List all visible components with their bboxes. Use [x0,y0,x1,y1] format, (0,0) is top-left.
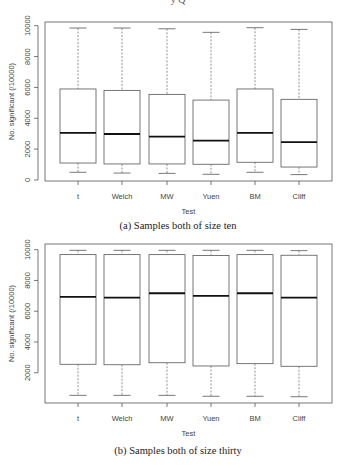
y-tick-label: 10000 [23,239,32,260]
y-tick-label: 4000 [23,110,32,127]
boxplot-size-ten: 0200040006000800010000No. significant (/… [7,15,332,232]
x-tick-label-yuen: Yuen [202,192,219,201]
box-t [60,250,96,395]
y-tick-label: 2000 [23,364,32,381]
x-tick-label-t: t [77,414,80,423]
figure-caption: (a) Samples both of size ten [120,220,238,232]
x-tick-label-cliff: Cliff [293,414,307,423]
figure: 0200040006000800010000No. significant (/… [0,0,356,468]
iqr-box [149,255,185,363]
box-welch [104,28,140,173]
iqr-box [104,90,140,164]
x-tick-label-bm: BM [249,414,260,423]
y-tick-label: 2000 [23,141,32,158]
y-tick-label: 6000 [23,79,32,96]
y-tick-label: 6000 [23,303,32,320]
iqr-box [193,256,229,366]
x-tick-label-yuen: Yuen [202,414,219,423]
y-tick-label: 8000 [23,48,32,65]
iqr-box [60,255,96,365]
box-mw [149,29,185,174]
figure-caption: (b) Samples both of size thirty [114,445,242,457]
iqr-box [149,94,185,164]
iqr-box [193,100,229,164]
x-tick-label-welch: Welch [112,414,133,423]
boxplot-size-thirty: 200040006000800010000No. significant (/1… [7,239,332,457]
iqr-box [281,99,317,167]
iqr-box [237,89,273,162]
x-tick-label-cliff: Cliff [293,192,307,201]
iqr-box [281,255,317,366]
box-yuen [193,32,229,174]
box-yuen [193,250,229,396]
y-tick-label: 0 [23,178,32,182]
x-axis-title: Test [182,429,197,438]
x-tick-label-mw: MW [160,192,174,201]
y-axis-title: No. significant (/10000) [7,62,16,140]
box-cliff [281,29,317,174]
iqr-box [237,255,273,364]
box-t [60,28,96,172]
box-bm [237,250,273,396]
y-tick-label: 10000 [23,15,32,36]
box-cliff [281,251,317,397]
iqr-box [60,89,96,163]
x-tick-label-mw: MW [160,414,174,423]
box-mw [149,250,185,395]
y-axis-title: No. significant (/10000) [7,284,16,362]
x-tick-label-welch: Welch [112,192,133,201]
box-welch [104,250,140,395]
y-tick-label: 4000 [23,334,32,351]
x-tick-label-t: t [77,192,80,201]
box-bm [237,28,273,173]
x-tick-label-bm: BM [249,192,260,201]
y-tick-label: 8000 [23,272,32,289]
iqr-box [104,255,140,365]
x-axis-title: Test [182,207,197,216]
